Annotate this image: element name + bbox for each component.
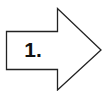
- step-number-label: 1.: [16, 36, 50, 64]
